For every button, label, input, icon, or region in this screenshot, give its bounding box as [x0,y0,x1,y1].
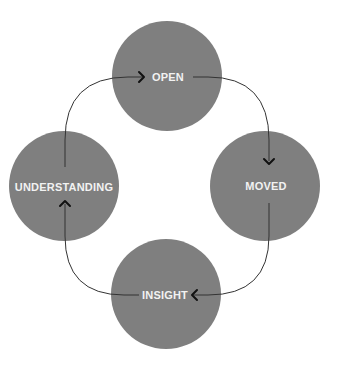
edge-insight-understanding [65,204,139,295]
label-insight: INSIGHT [142,290,188,301]
edge-understanding-open [65,77,143,167]
label-moved: MOVED [245,181,286,192]
edge-moved-insight [192,203,269,295]
edge-open-moved [193,77,269,161]
label-understanding: UNDERSTANDING [15,182,113,193]
label-open: OPEN [152,72,184,83]
